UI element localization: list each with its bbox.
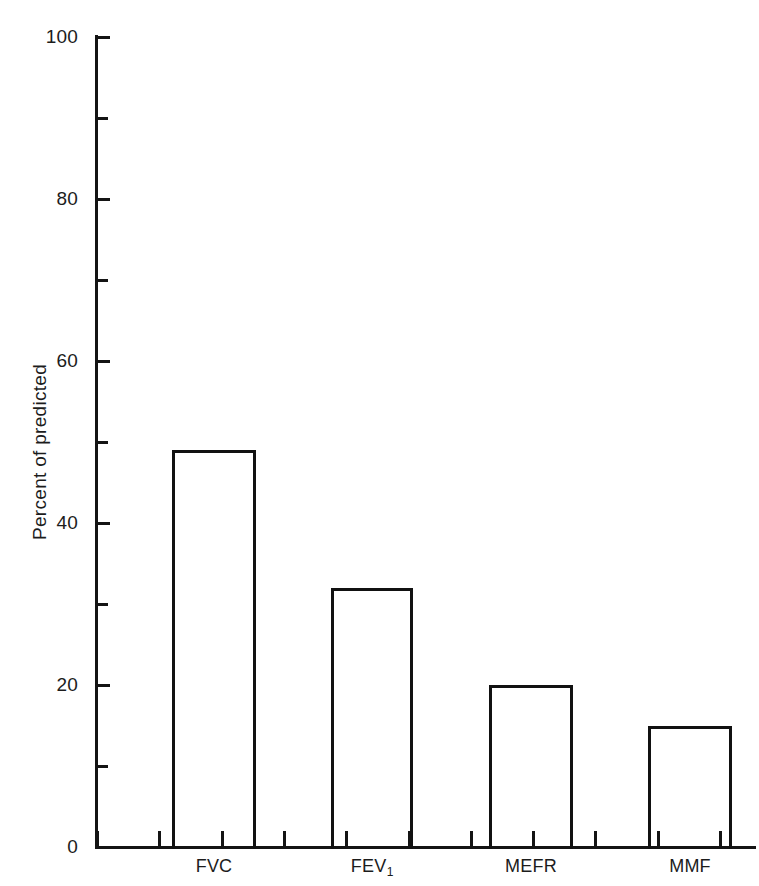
y-axis-tick-label-wrap: 60 (26, 351, 78, 370)
x-axis-tick (158, 831, 161, 847)
x-axis-label-fev1: FEV1 (291, 856, 453, 876)
y-axis-tick (95, 684, 110, 687)
y-axis-tick-label-wrap: 100 (26, 27, 78, 46)
y-axis-tick-label: 40 (26, 513, 78, 532)
x-axis-label-mefr: MEFR (449, 856, 613, 876)
y-axis-tick (95, 765, 108, 768)
bar-mmf (648, 726, 732, 850)
x-axis-tick (96, 831, 99, 847)
y-axis-tick-label-wrap: 20 (26, 675, 78, 694)
x-axis-tick (283, 831, 286, 847)
y-axis-tick (95, 522, 110, 525)
y-axis-tick (95, 279, 108, 282)
x-axis-tick (594, 831, 597, 847)
bar-chart: Percent of predicted 100806040200 FVCFEV… (0, 0, 759, 886)
y-axis-tick (95, 603, 108, 606)
bar-fev1 (331, 588, 413, 849)
y-axis-tick-label: 60 (26, 351, 78, 370)
y-axis-tick (95, 36, 110, 39)
y-axis-tick-label-wrap: 0 (26, 837, 78, 856)
bar-fvc (172, 450, 256, 849)
y-axis-tick-label-wrap: 40 (26, 513, 78, 532)
x-axis-label-mmf: MMF (608, 856, 759, 876)
x-axis-tick (470, 831, 473, 847)
y-axis-tick-label: 0 (26, 837, 78, 856)
y-axis-tick-label: 80 (26, 189, 78, 208)
y-axis-tick (95, 117, 108, 120)
y-axis-tick-label: 100 (26, 27, 78, 46)
x-axis-label-subscript: 1 (387, 865, 394, 879)
y-axis-tick-label-wrap: 80 (26, 189, 78, 208)
y-axis-tick (95, 441, 108, 444)
bar-mefr (489, 685, 573, 849)
y-axis-tick-label: 20 (26, 675, 78, 694)
y-axis-tick (95, 360, 110, 363)
x-axis-label-fvc: FVC (132, 856, 296, 876)
y-axis-tick (95, 198, 110, 201)
